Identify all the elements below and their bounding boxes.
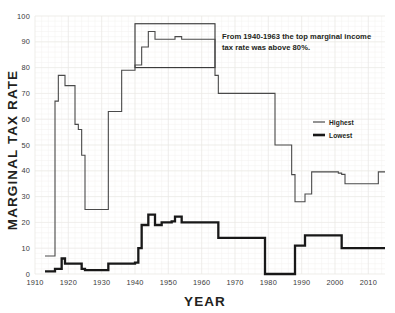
x-tick-label: 2010 bbox=[360, 278, 377, 287]
x-tick-label: 1920 bbox=[60, 278, 77, 287]
x-tick-label: 1980 bbox=[260, 278, 277, 287]
y-tick-label: 80 bbox=[21, 63, 30, 72]
y-tick-label: 50 bbox=[21, 141, 30, 150]
y-tick-label: 60 bbox=[21, 115, 30, 124]
x-tick-label: 1950 bbox=[160, 278, 177, 287]
x-tick-label: 1960 bbox=[193, 278, 210, 287]
x-tick-label: 1940 bbox=[126, 278, 143, 287]
marginal-tax-rate-line-chart: 0102030405060708090100 19101920193019401… bbox=[0, 0, 395, 313]
y-tick-label: 30 bbox=[21, 192, 30, 201]
legend-label-lowest: Lowest bbox=[329, 132, 353, 139]
y-tick-label: 100 bbox=[17, 12, 30, 21]
y-tick-label: 90 bbox=[21, 37, 30, 46]
x-tick-label: 1990 bbox=[293, 278, 310, 287]
x-axis-tick-labels: 1910192019301940195019601970198019902000… bbox=[26, 278, 377, 287]
x-axis-title: YEAR bbox=[184, 294, 226, 309]
chart-container: 0102030405060708090100 19101920193019401… bbox=[0, 0, 395, 313]
annotation-line-1: From 1940-1963 the top marginal income bbox=[222, 32, 371, 41]
y-tick-label: 10 bbox=[21, 244, 30, 253]
legend-label-highest: Highest bbox=[329, 119, 355, 127]
y-tick-label: 20 bbox=[21, 218, 30, 227]
y-axis-title: MARGINAL TAX RATE bbox=[5, 70, 20, 230]
y-tick-label: 40 bbox=[21, 166, 30, 175]
x-tick-label: 1930 bbox=[93, 278, 110, 287]
x-tick-label: 1910 bbox=[26, 278, 43, 287]
y-tick-label: 70 bbox=[21, 89, 30, 98]
x-tick-label: 1970 bbox=[226, 278, 243, 287]
x-tick-label: 2000 bbox=[326, 278, 343, 287]
annotation-line-2: tax rate was above 80%. bbox=[222, 43, 310, 52]
